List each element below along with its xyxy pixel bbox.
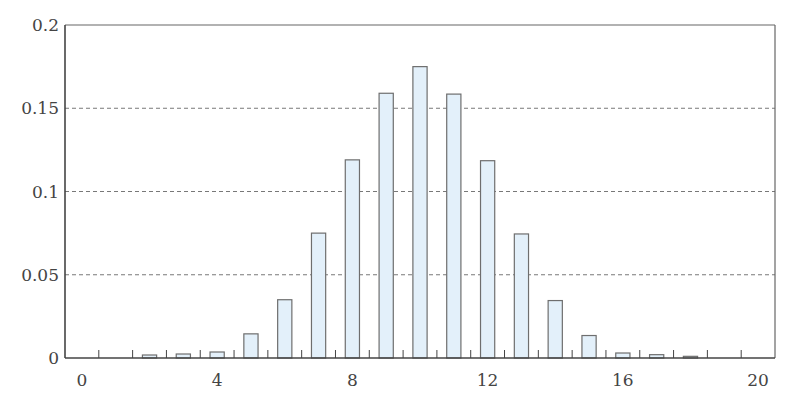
x-axis-tick-labels: 048121620	[76, 370, 768, 390]
bar-8	[345, 160, 359, 358]
bar-11	[447, 94, 461, 358]
x-tick-label: 12	[477, 370, 499, 390]
x-tick-label: 4	[212, 370, 223, 390]
binomial-bar-chart: 048121620 00.050.10.150.2	[0, 0, 794, 415]
x-tick-label: 0	[76, 370, 87, 390]
bar-7	[311, 233, 325, 358]
bar-14	[548, 301, 562, 358]
y-tick-label: 0.05	[21, 265, 59, 285]
bar-6	[278, 300, 292, 358]
x-tick-label: 20	[747, 370, 769, 390]
x-tick-label: 16	[612, 370, 634, 390]
bar-series	[142, 67, 697, 358]
y-axis-tick-labels: 00.050.10.150.2	[21, 15, 59, 368]
y-tick-label: 0	[48, 348, 59, 368]
bar-13	[514, 234, 528, 358]
bar-10	[413, 67, 427, 358]
y-tick-label: 0.1	[32, 182, 59, 202]
bar-15	[582, 336, 596, 358]
bar-5	[244, 334, 258, 358]
x-tick-label: 8	[347, 370, 358, 390]
bar-9	[379, 93, 393, 358]
bar-4	[210, 352, 224, 358]
y-tick-label: 0.15	[21, 98, 59, 118]
y-tick-label: 0.2	[32, 15, 59, 35]
bar-12	[481, 161, 495, 358]
